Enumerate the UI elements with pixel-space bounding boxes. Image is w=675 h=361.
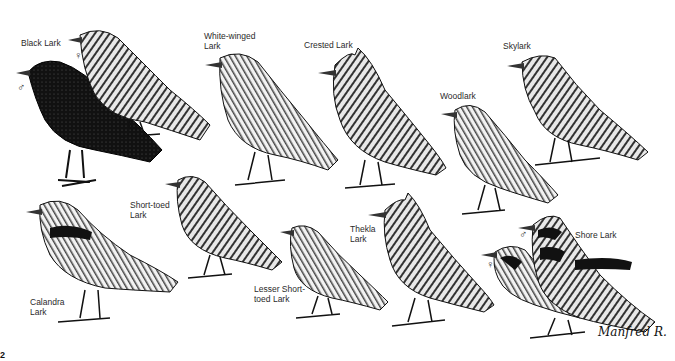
label-lesser-short-toed-lark: Lesser Short- toed Lark: [254, 284, 305, 304]
lark-illustration-plate: Black Lark White-winged Lark Crested Lar…: [0, 0, 675, 361]
label-white-winged-lark: White-winged Lark: [204, 31, 256, 51]
label-crested-lark: Crested Lark: [304, 40, 353, 50]
label-woodlark: Woodlark: [440, 91, 476, 101]
skylark-bird: [507, 56, 648, 165]
plate-corner-mark: 2: [0, 350, 5, 360]
label-short-toed-lark: Short-toed Lark: [130, 200, 170, 220]
short-toed-lark-bird: [165, 176, 282, 278]
male-symbol-shore-lark: ♂: [519, 229, 527, 240]
crested-lark-bird: [318, 48, 446, 188]
female-symbol-black-lark: ♀: [74, 50, 82, 61]
label-calandra-lark: Calandra Lark: [30, 297, 65, 317]
label-thekla-lark: Thekla Lark: [350, 224, 376, 244]
artist-signature: Manfred R.: [598, 325, 667, 339]
label-skylark: Skylark: [503, 41, 531, 51]
label-black-lark: Black Lark: [21, 38, 61, 48]
bird-drawings: [0, 0, 675, 361]
female-symbol-shore-lark: ♀: [486, 259, 494, 270]
label-shore-lark: Shore Lark: [575, 230, 617, 240]
white-winged-lark-bird: [205, 54, 338, 185]
male-symbol-black-lark: ♂: [17, 82, 25, 93]
